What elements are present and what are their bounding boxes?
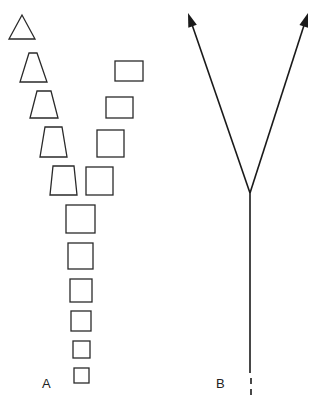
stem-square-shape [74,368,89,383]
right-arrowhead-icon [299,13,308,28]
right-branch-line [250,21,306,193]
trapezoid-shape [50,166,77,195]
stem-square-shape [68,243,93,269]
trapezoid-shape [30,91,58,118]
panel-a-label: A [42,377,51,390]
triangle-shape [9,15,35,39]
panel-b [188,13,308,395]
diagram-canvas [0,0,326,403]
left-arrowhead-icon [188,13,197,28]
trapezoid-shape [20,53,47,82]
branch-square-shape [86,167,113,195]
left-branch-line [191,21,250,193]
panel-b-label: B [216,377,225,390]
panel-a [9,15,143,383]
branch-square-sequence [86,61,143,195]
trapezoid-shape [40,127,67,157]
stem-square-sequence [66,205,95,383]
stem-square-shape [71,311,91,331]
branch-square-shape [115,61,143,81]
stem-square-shape [66,205,95,233]
branch-square-shape [106,97,133,118]
trapezoid-sequence [20,53,77,195]
stem-square-shape [73,341,90,358]
branch-square-shape [97,130,124,157]
stem-square-shape [70,279,92,302]
